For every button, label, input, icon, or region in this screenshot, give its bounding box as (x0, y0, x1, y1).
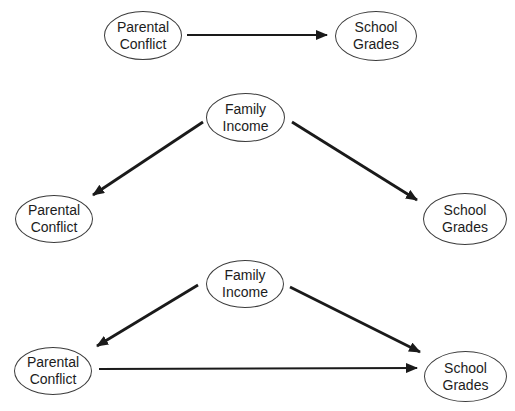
arrow-panel2-family-income-to-parental-conflict (93, 122, 203, 195)
arrow-panel2-family-income-to-school-grades (292, 122, 417, 200)
node-label-line: Family (225, 101, 266, 118)
node-label-line: Income (222, 284, 268, 301)
causal-diagram-canvas: Parental Conflict School Grades Family I… (0, 0, 515, 411)
node-panel3-family-income: Family Income (206, 260, 284, 308)
node-label-line: Grades (353, 36, 399, 53)
node-panel1-parental-conflict: Parental Conflict (104, 11, 182, 60)
node-label-line: Grades (442, 219, 488, 236)
node-label-line: Conflict (30, 371, 77, 388)
node-label-line: Conflict (31, 219, 78, 236)
node-label-line: Income (223, 118, 269, 135)
node-label-line: Conflict (120, 36, 167, 53)
arrow-panel3-family-income-to-parental-conflict (97, 285, 198, 346)
node-panel3-school-grades: School Grades (424, 351, 507, 402)
node-label-line: Family (224, 267, 265, 284)
node-label-line: Parental (117, 19, 169, 36)
node-label-line: Parental (27, 354, 79, 371)
node-label-line: Grades (443, 377, 489, 394)
arrow-panel3-family-income-to-school-grades (290, 287, 420, 352)
node-panel2-school-grades: School Grades (423, 193, 507, 245)
node-label-line: School (444, 202, 487, 219)
node-label-line: School (355, 19, 398, 36)
arrow-panel3-parental-conflict-to-school-grades (99, 368, 417, 369)
node-panel3-parental-conflict: Parental Conflict (14, 347, 92, 395)
node-panel1-school-grades: School Grades (335, 11, 417, 61)
node-label-line: Parental (28, 202, 80, 219)
node-label-line: School (444, 360, 487, 377)
node-panel2-parental-conflict: Parental Conflict (15, 195, 93, 243)
node-panel2-family-income: Family Income (206, 93, 285, 142)
